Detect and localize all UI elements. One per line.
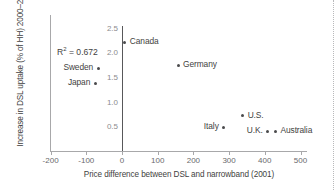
y-tick-label: 1.5 [92, 73, 118, 82]
data-point [177, 64, 180, 67]
x-tick-label: 500 [281, 156, 321, 165]
x-axis-title: Price difference between DSL and narrowb… [50, 170, 308, 179]
y-tick-label: 0.5 [92, 122, 118, 131]
data-point [241, 114, 244, 117]
data-point-label: Japan [68, 77, 90, 87]
x-tick-mark [122, 151, 123, 155]
chart-figure: -200-1000100200300400500 0.51.01.52.02.5… [0, 0, 334, 190]
x-tick-label: -100 [66, 156, 106, 165]
data-point-label: Germany [183, 59, 217, 69]
x-tick-mark [301, 151, 302, 155]
data-point [274, 130, 277, 133]
x-tick-mark [86, 151, 87, 155]
data-point-label: Canada [130, 36, 159, 46]
x-tick-mark [193, 151, 194, 155]
zero-value-axis [122, 26, 123, 152]
y-tick-label: 2.5 [92, 24, 118, 33]
x-tick-label: 200 [173, 156, 213, 165]
data-point-label: Sweden [63, 62, 93, 72]
data-point [94, 82, 97, 85]
x-tick-label: -200 [31, 156, 71, 165]
x-tick-label: 100 [138, 156, 178, 165]
y-axis-title: Increase in DSL uptake (% of HH) 2000–20… [16, 0, 25, 152]
data-point-label: Italy [204, 121, 219, 131]
x-tick-label: 0 [102, 156, 142, 165]
y-tick-label: 1.0 [92, 98, 118, 107]
data-point [123, 41, 126, 44]
data-point-label: U.S. [248, 110, 264, 120]
plot-area: -200-1000100200300400500 0.51.01.52.02.5… [0, 0, 334, 190]
data-point [222, 126, 225, 129]
x-tick-mark [158, 151, 159, 155]
data-point [97, 67, 100, 70]
x-tick-mark [51, 151, 52, 155]
r-squared-annotation: R2 = 0.672 [57, 46, 98, 57]
data-point [266, 130, 269, 133]
r2-value: = 0.672 [67, 47, 98, 57]
axis-line-bottom [50, 151, 307, 152]
x-tick-mark [229, 151, 230, 155]
data-point-label: Australia [281, 125, 313, 135]
x-tick-mark [265, 151, 266, 155]
x-tick-label: 400 [245, 156, 285, 165]
axis-line-left [50, 15, 51, 152]
data-point-label: U.K. [247, 125, 263, 135]
x-tick-label: 300 [209, 156, 249, 165]
